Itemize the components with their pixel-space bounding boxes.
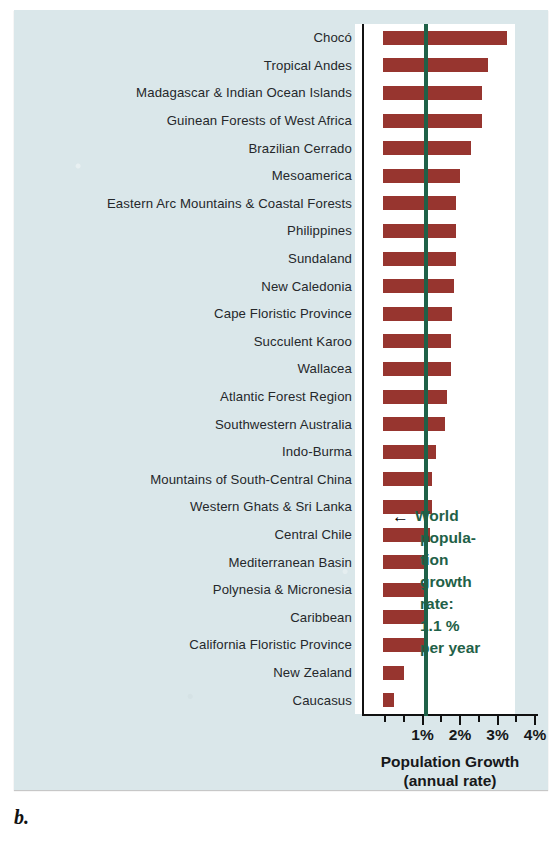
category-label: Indo-Burma	[0, 445, 361, 458]
bar-row: Mountains of South-Central China	[0, 466, 540, 494]
bar-cell	[361, 52, 540, 80]
bar-cell	[361, 272, 540, 300]
bar-cell	[361, 328, 540, 356]
bar-cell	[361, 466, 540, 494]
annotation-line-3: growth	[420, 571, 540, 593]
bar-row: Succulent Karoo	[0, 328, 540, 356]
bar-cell	[361, 245, 540, 273]
bar-row: Southwestern Australia	[0, 410, 540, 438]
bar	[383, 334, 451, 348]
axis-tick-minor	[384, 716, 386, 722]
bar-row: Madagascar & Indian Ocean Islands	[0, 79, 540, 107]
bar	[383, 196, 456, 210]
category-label: Mediterranean Basin	[0, 556, 361, 569]
bar-cell	[361, 659, 540, 687]
bar-cell	[361, 686, 540, 714]
bar-row: Chocó	[0, 24, 540, 52]
bar-cell	[361, 134, 540, 162]
bar	[383, 666, 404, 680]
bar-row: Atlantic Forest Region	[0, 383, 540, 411]
annotation-line-5: 1.1 %	[420, 615, 540, 637]
category-label: Philippines	[0, 224, 361, 237]
category-label: Madagascar & Indian Ocean Islands	[0, 86, 361, 99]
category-label: Central Chile	[0, 528, 361, 541]
axis-tick-label: 2%	[449, 726, 471, 744]
bar-cell	[361, 355, 540, 383]
axis-tick-minor	[515, 716, 517, 722]
bar-row: New Caledonia	[0, 272, 540, 300]
bar	[383, 86, 482, 100]
bar-row: Guinean Forests of West Africa	[0, 107, 540, 135]
bar-row: Eastern Arc Mountains & Coastal Forests	[0, 190, 540, 218]
category-label: Chocó	[0, 31, 361, 44]
axis-tick-label: 4%	[524, 726, 546, 744]
bar-cell	[361, 300, 540, 328]
annotation-line-4: rate:	[420, 593, 540, 615]
axis-tick-major	[422, 716, 424, 725]
bar-cell	[361, 107, 540, 135]
reference-line-annotation: ← World popula- tion growth rate: 1.1 % …	[420, 505, 540, 659]
bar	[383, 169, 460, 183]
category-label: California Floristic Province	[0, 638, 361, 651]
axis-title-main: Population Growth	[355, 752, 545, 771]
axis-tick-minor	[440, 716, 442, 722]
category-label: Cape Floristic Province	[0, 307, 361, 320]
bar-cell	[361, 410, 540, 438]
bar-row: Sundaland	[0, 245, 540, 273]
category-label: Western Ghats & Sri Lanka	[0, 500, 361, 513]
bar-row: Brazilian Cerrado	[0, 134, 540, 162]
axis-tick-major	[459, 716, 461, 725]
bar	[383, 252, 456, 266]
annotation-line-1: popula-	[420, 527, 540, 549]
category-label: Atlantic Forest Region	[0, 390, 361, 403]
bar-row: Mesoamerica	[0, 162, 540, 190]
category-label: Caribbean	[0, 611, 361, 624]
category-label: Mesoamerica	[0, 169, 361, 182]
category-label: Southwestern Australia	[0, 418, 361, 431]
bar-cell	[361, 383, 540, 411]
bar	[383, 279, 454, 293]
bar	[383, 58, 488, 72]
bar-cell	[361, 162, 540, 190]
bar	[383, 224, 456, 238]
bar	[383, 693, 394, 707]
bar-row: Caucasus	[0, 686, 540, 714]
bar	[383, 114, 482, 128]
category-label: New Zealand	[0, 666, 361, 679]
category-label: New Caledonia	[0, 280, 361, 293]
axis-tick-label: 1%	[411, 726, 433, 744]
annotation-line-0: World	[415, 505, 459, 527]
bar	[383, 390, 447, 404]
category-label: Guinean Forests of West Africa	[0, 114, 361, 127]
category-label: Tropical Andes	[0, 59, 361, 72]
axis-tick-major	[497, 716, 499, 725]
bar	[383, 417, 445, 431]
category-label: Sundaland	[0, 252, 361, 265]
bar-row: Philippines	[0, 217, 540, 245]
axis-tick-minor	[403, 716, 405, 722]
axis-tick-label: 3%	[486, 726, 508, 744]
left-arrow-icon: ←	[392, 508, 409, 525]
bar-cell	[361, 217, 540, 245]
category-label: Brazilian Cerrado	[0, 142, 361, 155]
figure-letter: b.	[14, 806, 29, 829]
annotation-first-line: ← World	[420, 505, 540, 527]
bar-cell	[361, 24, 540, 52]
axis-tick-major	[534, 716, 536, 725]
category-label: Wallacea	[0, 362, 361, 375]
annotation-line-2: tion	[420, 549, 540, 571]
bar-row: New Zealand	[0, 659, 540, 687]
axis-title-sub: (annual rate)	[355, 771, 545, 790]
axis-tick-minor	[478, 716, 480, 722]
bar-row: Tropical Andes	[0, 52, 540, 80]
bar-cell	[361, 438, 540, 466]
category-label: Mountains of South-Central China	[0, 473, 361, 486]
value-axis-line	[362, 714, 538, 716]
bar	[383, 31, 507, 45]
bar	[383, 307, 452, 321]
bar-row: Wallacea	[0, 355, 540, 383]
category-label: Eastern Arc Mountains & Coastal Forests	[0, 197, 361, 210]
category-label: Caucasus	[0, 694, 361, 707]
bar-row: Cape Floristic Province	[0, 300, 540, 328]
bar-cell	[361, 190, 540, 218]
